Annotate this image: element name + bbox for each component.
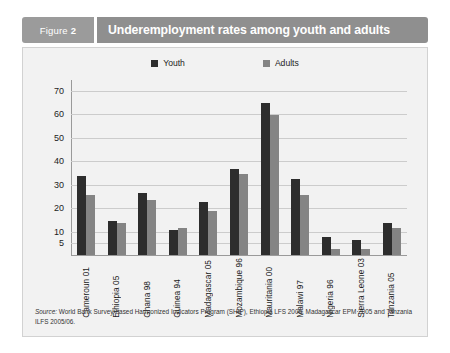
y-axis-tick-label: 20 (54, 203, 64, 213)
y-axis-tick-label: 30 (54, 180, 64, 190)
bar-group (285, 80, 316, 256)
bar-group (102, 80, 133, 256)
legend-item: Adults (263, 58, 299, 68)
bar-series-container (71, 80, 407, 256)
figure-tag-number: 2 (71, 25, 76, 36)
legend-item: Youth (151, 58, 185, 68)
y-axis-tick-label: 40 (54, 156, 64, 166)
y-axis-tick-label: 5 (59, 238, 64, 248)
bar-adults (86, 195, 95, 256)
figure-number-tag: Figure 2 (22, 17, 94, 43)
plot-area: 706050403020105 (71, 80, 407, 256)
bar-group (193, 80, 224, 256)
chart-panel: YouthAdults 706050403020105 Cameroun 01E… (22, 47, 428, 337)
square-swatch-icon (263, 60, 270, 67)
chart-legend: YouthAdults (23, 58, 427, 68)
bar-adults (270, 115, 279, 256)
bar-group (254, 80, 285, 256)
y-axis-tick-label: 10 (54, 227, 64, 237)
bar-group (132, 80, 163, 256)
figure-title: Underemployment rates among youth and ad… (97, 17, 428, 43)
figure-banner: Figure 2 Underemployment rates among you… (22, 17, 428, 43)
bar-adults (147, 200, 156, 256)
bar-youth (322, 237, 331, 256)
bar-youth (169, 230, 178, 256)
bar-youth (138, 193, 147, 256)
bar-youth (108, 221, 117, 256)
bar-youth (199, 202, 208, 256)
y-axis-tick-label: 50 (54, 133, 64, 143)
bar-youth (230, 169, 239, 256)
x-axis-line (71, 255, 407, 256)
bar-youth (291, 179, 300, 256)
square-swatch-icon (151, 60, 158, 67)
bar-youth (352, 240, 361, 256)
bar-group (224, 80, 255, 256)
bar-adults (300, 195, 309, 256)
y-axis-tick-label: 70 (54, 86, 64, 96)
bar-group (71, 80, 102, 256)
bar-adults (117, 223, 126, 256)
bar-group (346, 80, 377, 256)
bar-adults (178, 228, 187, 256)
bar-group (376, 80, 407, 256)
bar-youth (77, 176, 86, 256)
source-text: World Bank Survey-based Harmonized Indic… (35, 308, 412, 325)
source-label: Source: (35, 308, 57, 315)
bar-adults (208, 211, 217, 256)
legend-label: Adults (275, 58, 299, 68)
bar-group (163, 80, 194, 256)
bar-group (315, 80, 346, 256)
bar-youth (261, 103, 270, 256)
bar-youth (383, 223, 392, 256)
legend-label: Youth (163, 58, 185, 68)
figure-tag-prefix: Figure (40, 25, 68, 36)
source-note: Source: World Bank Survey-based Harmoniz… (35, 307, 413, 327)
bar-adults (239, 174, 248, 256)
y-axis-tick-label: 60 (54, 109, 64, 119)
bar-adults (392, 228, 401, 256)
